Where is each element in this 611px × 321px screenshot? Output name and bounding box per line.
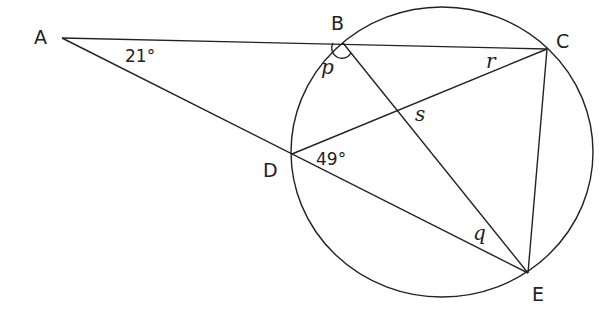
chord-be bbox=[343, 43, 528, 273]
point-label-d: D bbox=[263, 159, 278, 181]
angle-label-d: 49° bbox=[316, 149, 346, 169]
angle-var-s: s bbox=[415, 102, 425, 126]
angle-var-r: r bbox=[486, 49, 497, 73]
point-label-c: C bbox=[556, 30, 569, 52]
circle-geometry-diagram: A B C D E 21° 49° p r s q bbox=[0, 0, 611, 321]
line-ae bbox=[62, 38, 528, 273]
point-label-a: A bbox=[34, 26, 47, 48]
chord-ce bbox=[528, 49, 547, 273]
point-label-e: E bbox=[532, 283, 544, 305]
angle-var-q: q bbox=[473, 221, 486, 245]
angle-label-a: 21° bbox=[125, 46, 155, 66]
point-label-b: B bbox=[331, 12, 344, 34]
angle-var-p: p bbox=[321, 55, 334, 79]
